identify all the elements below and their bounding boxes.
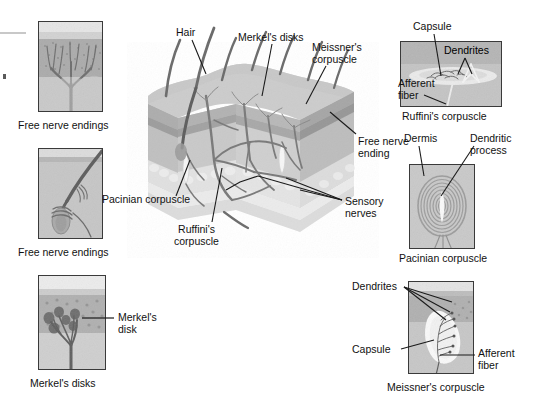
inset-meissners-corpuscle	[408, 281, 474, 374]
caption-pacinian-corpuscle: Pacinian corpuscle	[399, 253, 487, 265]
caption-free-nerve-endings-1: Free nerve endings	[18, 120, 108, 132]
label-hair: Hair	[176, 27, 195, 39]
label-afferent-fiber-ruffinis: Afferent fiber	[398, 78, 435, 101]
crop-rule-artifact	[0, 32, 26, 34]
inset-free-nerve-endings-1	[38, 21, 103, 112]
label-afferent-fiber-meissners: Afferent fiber	[478, 348, 515, 371]
label-capsule-ruffinis: Capsule	[413, 21, 452, 33]
inset-pacinian-corpuscle	[409, 164, 475, 249]
label-merkels-disk-inner: Merkel's disk	[118, 312, 157, 335]
label-free-nerve-ending-center: Free nerve ending	[358, 136, 409, 159]
crop-mark-artifact	[3, 74, 6, 79]
label-dendritic-process-pacinian: Dendritic process	[470, 133, 511, 156]
label-sensory-nerves: Sensory nerves	[345, 196, 384, 219]
label-meissners-corpuscle-center: Meissner's corpuscle	[312, 42, 362, 65]
label-dendrites-ruffinis: Dendrites	[444, 45, 489, 57]
label-merkels-disks-center: Merkel's disks	[238, 32, 304, 44]
caption-meissners-corpuscle: Meissner's corpuscle	[387, 382, 485, 394]
inset-merkels-disks	[38, 275, 106, 370]
label-dendrites-meissners: Dendrites	[352, 281, 397, 293]
label-dermis-pacinian: Dermis	[404, 133, 437, 145]
label-capsule-meissners: Capsule	[352, 344, 391, 356]
inset-free-nerve-endings-2	[38, 148, 103, 239]
caption-merkels-disks: Merkel's disks	[30, 378, 96, 390]
caption-ruffinis-corpuscle: Ruffini's corpuscle	[402, 111, 487, 123]
label-pacinian-corpuscle-center: Pacinian corpuscle	[102, 194, 190, 206]
caption-free-nerve-endings-2: Free nerve endings	[18, 247, 108, 259]
label-ruffinis-corpuscle-center: Ruffini's corpuscle	[174, 224, 219, 247]
skin-receptors-figure: Free nerve endings	[0, 0, 540, 412]
